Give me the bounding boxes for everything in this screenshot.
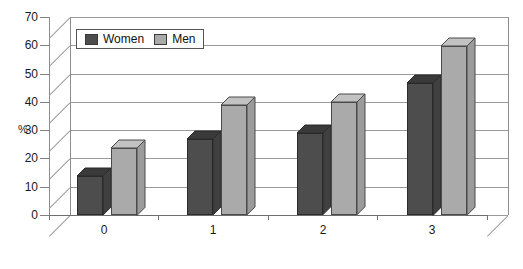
bar-chart: 70 60 50 40 30 20 10 0 % xyxy=(0,0,523,269)
legend-item-men: Men xyxy=(154,33,195,45)
y-tick-mark xyxy=(40,17,49,18)
bar-men-3-3d xyxy=(441,38,475,215)
bar-3d-men-2 xyxy=(331,94,365,216)
legend-swatch-men-icon xyxy=(154,34,167,45)
bar-women-2-3d xyxy=(297,125,331,215)
depth-edge xyxy=(49,17,70,38)
x-tick-label: 3 xyxy=(429,224,436,236)
y-tick-label: 50 xyxy=(4,68,38,80)
bar-men-2-3d xyxy=(331,94,365,215)
y-tick-label: 20 xyxy=(4,152,38,164)
legend-item-women: Women xyxy=(85,33,144,45)
x-tick-mark xyxy=(377,215,378,220)
y-tick-label: 0 xyxy=(4,209,38,221)
bar-men-1-3d xyxy=(221,97,255,215)
legend-label-women: Women xyxy=(103,33,144,45)
depth-edge xyxy=(49,102,70,123)
plot-back-left-wall xyxy=(70,17,71,215)
bar-women-0-3d xyxy=(77,168,111,215)
gridline xyxy=(70,17,508,18)
legend-swatch-women-icon xyxy=(85,34,98,45)
y-tick-mark xyxy=(40,130,49,131)
y-tick-mark xyxy=(40,102,49,103)
bar-women-1-3d xyxy=(187,131,221,215)
floor-depth-edge xyxy=(487,215,508,236)
depth-edge xyxy=(49,187,70,208)
depth-edge xyxy=(49,74,70,95)
y-tick-mark xyxy=(40,74,49,75)
x-tick-label: 0 xyxy=(101,224,108,236)
y-tick-label: 40 xyxy=(4,96,38,108)
bar-3d-women-0 xyxy=(77,168,111,216)
x-tick-mark xyxy=(268,215,269,220)
y-tick-mark xyxy=(40,45,49,46)
y-tick-mark xyxy=(40,215,49,216)
bar-3d-women-3 xyxy=(407,75,441,217)
legend-label-men: Men xyxy=(172,33,195,45)
x-tick-mark xyxy=(487,215,488,220)
chart-legend: Women Men xyxy=(76,29,204,49)
y-tick-label: 10 xyxy=(4,181,38,193)
depth-edge xyxy=(49,215,70,236)
plot-right-wall xyxy=(508,17,509,215)
y-tick-mark xyxy=(40,187,49,188)
bar-men-0-3d xyxy=(111,140,145,215)
y-tick-label: 70 xyxy=(4,11,38,23)
x-tick-label: 1 xyxy=(210,224,217,236)
x-tick-label: 2 xyxy=(320,224,327,236)
bar-women-3-3d xyxy=(407,75,441,215)
x-tick-mark xyxy=(49,215,50,220)
bar-3d-men-0 xyxy=(111,140,145,216)
y-axis-title: % xyxy=(18,124,28,135)
bar-3d-women-1 xyxy=(187,131,221,216)
depth-edge xyxy=(49,159,70,180)
depth-edge xyxy=(49,46,70,67)
depth-edge xyxy=(49,131,70,152)
x-tick-mark xyxy=(158,215,159,220)
bar-3d-men-1 xyxy=(221,97,255,216)
bar-3d-women-2 xyxy=(297,125,331,216)
y-tick-mark xyxy=(40,158,49,159)
bar-3d-men-3 xyxy=(441,38,475,216)
y-tick-label: 60 xyxy=(4,39,38,51)
